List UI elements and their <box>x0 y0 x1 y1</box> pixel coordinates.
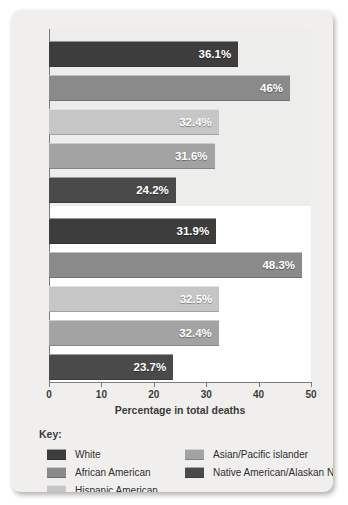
bar-value-label: 36.1% <box>199 48 232 60</box>
legend-title: Key: <box>39 428 329 440</box>
legend: Key: WhiteAfrican AmericanHispanic Ameri… <box>39 428 329 492</box>
bar-row: 23.7% <box>49 354 173 380</box>
bar-value-label: 48.3% <box>262 259 295 271</box>
bar: 24.2% <box>49 177 176 203</box>
legend-label: Native American/Alaskan Native <box>213 467 333 478</box>
legend-label: Asian/Pacific islander <box>213 449 308 460</box>
legend-item: Hispanic American <box>47 482 158 492</box>
bar: 32.5% <box>49 286 219 312</box>
x-tick-mark <box>259 382 260 387</box>
bar: 48.3% <box>49 252 302 278</box>
x-axis-line <box>49 382 311 383</box>
x-tick-label: 30 <box>201 389 212 400</box>
legend-label: White <box>75 449 101 460</box>
legend-swatch <box>47 467 66 478</box>
plot-area: 01020304050 36.1%46%32.4%31.6%24.2%31.9%… <box>38 29 311 384</box>
x-tick-label: 50 <box>305 389 316 400</box>
legend-item: Native American/Alaskan Native <box>185 464 333 481</box>
bar: 36.1% <box>49 41 238 67</box>
x-axis-title: Percentage in total deaths <box>38 404 322 416</box>
bar-value-label: 24.2% <box>136 184 169 196</box>
bar-row: 31.9% <box>49 218 216 244</box>
x-tick-mark <box>206 382 207 387</box>
bar-value-label: 32.4% <box>179 116 212 128</box>
legend-column-left: WhiteAfrican AmericanHispanic American <box>47 446 158 492</box>
x-tick-label: 40 <box>253 389 264 400</box>
x-tick-mark <box>154 382 155 387</box>
bar-row: 32.5% <box>49 286 219 312</box>
bar-row: 48.3% <box>49 252 302 278</box>
bar-row: 46% <box>49 75 290 101</box>
bar: 46% <box>49 75 290 101</box>
x-tick-mark <box>49 382 50 387</box>
bar-row: 24.2% <box>49 177 176 203</box>
bar-row: 36.1% <box>49 41 238 67</box>
bar-row: 31.6% <box>49 143 215 169</box>
legend-swatch <box>185 467 204 478</box>
legend-swatch <box>47 485 66 492</box>
legend-swatch <box>47 449 66 460</box>
bar-value-label: 46% <box>260 82 283 94</box>
legend-item: Asian/Pacific islander <box>185 446 333 463</box>
bar-value-label: 32.5% <box>180 293 213 305</box>
bar: 32.4% <box>49 109 219 135</box>
bar-row: 32.4% <box>49 320 219 346</box>
legend-label: African American <box>75 467 151 478</box>
bar-value-label: 31.9% <box>177 225 210 237</box>
bar: 32.4% <box>49 320 219 346</box>
bar-value-label: 31.6% <box>175 150 208 162</box>
legend-item: African American <box>47 464 158 481</box>
x-tick-label: 10 <box>96 389 107 400</box>
legend-label: Hispanic American <box>75 485 158 492</box>
x-tick-label: 0 <box>46 389 52 400</box>
legend-item: White <box>47 446 158 463</box>
legend-swatch <box>185 449 204 460</box>
x-tick-label: 20 <box>148 389 159 400</box>
bar-row: 32.4% <box>49 109 219 135</box>
bar: 31.6% <box>49 143 215 169</box>
x-tick-mark <box>101 382 102 387</box>
bar-value-label: 32.4% <box>179 327 212 339</box>
bar: 23.7% <box>49 354 173 380</box>
bar-value-label: 23.7% <box>134 361 167 373</box>
bar: 31.9% <box>49 218 216 244</box>
chart-card: 01020304050 36.1%46%32.4%31.6%24.2%31.9%… <box>11 10 333 492</box>
legend-column-right: Asian/Pacific islanderNative American/Al… <box>185 446 333 482</box>
x-tick-mark <box>311 382 312 387</box>
